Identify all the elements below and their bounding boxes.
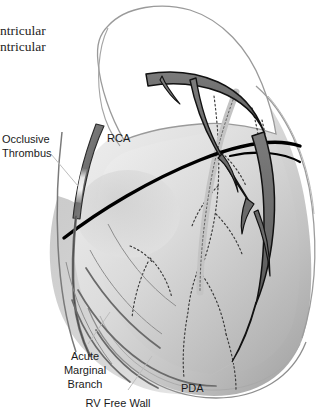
label-right-ventricular: ntricular xyxy=(0,38,46,55)
label-pda: PDA xyxy=(181,381,204,395)
label-left-ventricular: ntricular xyxy=(0,22,46,39)
label-rca: RCA xyxy=(107,131,130,145)
heart-illustration xyxy=(0,0,334,411)
leader-occlusive-thrombus xyxy=(51,154,78,186)
label-occlusive-thrombus: Occlusive Thrombus xyxy=(2,132,52,160)
coronary-anatomy-figure: ntricular ntricular Occlusive Thrombus R… xyxy=(0,0,334,411)
label-rv-free-wall: RV Free Wall xyxy=(73,396,163,410)
label-acute-marginal-branch: Acute Marginal Branch xyxy=(56,349,114,391)
ventricle-shadow xyxy=(76,170,180,258)
